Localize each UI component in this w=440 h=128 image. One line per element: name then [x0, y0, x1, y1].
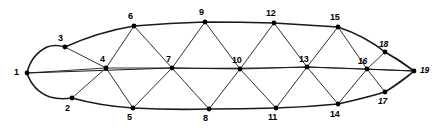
edge-2-4 [72, 68, 106, 98]
node-label-7: 7 [166, 55, 171, 64]
edge-10-12 [240, 23, 274, 69]
edge-13-15 [307, 27, 338, 67]
edge-16-17 [367, 69, 385, 92]
node-label-13: 13 [299, 55, 309, 64]
node-dot-6[interactable] [132, 24, 137, 29]
node-label-17: 17 [378, 97, 387, 106]
node-label-19: 19 [420, 66, 429, 75]
edge-17-19 [385, 71, 414, 92]
outline-layer [27, 22, 414, 109]
node-label-3: 3 [58, 34, 63, 43]
node-dot-18[interactable] [383, 50, 388, 55]
node-label-1: 1 [14, 68, 19, 77]
node-dot-11[interactable] [274, 106, 279, 111]
node-dot-3[interactable] [63, 45, 68, 50]
outline-path-lower-hull [27, 71, 414, 109]
node-dot-5[interactable] [131, 106, 136, 111]
edge-8-10 [209, 69, 240, 109]
edge-4-5 [106, 68, 133, 108]
edge-16-18 [367, 52, 385, 69]
node-label-10: 10 [232, 56, 242, 65]
node-label-14: 14 [330, 110, 340, 119]
node-label-6: 6 [128, 12, 133, 21]
node-label-12: 12 [266, 9, 276, 18]
node-dot-10[interactable] [238, 67, 243, 72]
node-label-5: 5 [127, 113, 132, 122]
edge-7-8 [172, 68, 209, 109]
node-dot-17[interactable] [383, 90, 388, 95]
edge-7-9 [172, 22, 205, 68]
node-label-8: 8 [203, 114, 208, 123]
node-dot-13[interactable] [305, 65, 310, 70]
node-dot-15[interactable] [336, 25, 341, 30]
edge-13-14 [307, 67, 338, 104]
node-label-11: 11 [268, 113, 277, 122]
edge-4-6 [106, 26, 134, 68]
node-label-4: 4 [100, 55, 105, 64]
outline-path-upper-hull [27, 22, 414, 73]
node-label-2: 2 [65, 104, 70, 113]
node-dot-16[interactable] [365, 67, 370, 72]
node-label-9: 9 [199, 8, 204, 17]
node-dot-14[interactable] [336, 102, 341, 107]
node-dot-9[interactable] [203, 20, 208, 25]
node-dot-2[interactable] [70, 96, 75, 101]
mesh-graph-figure: 12345678910111213141516171819 [0, 0, 440, 128]
node-dot-1[interactable] [25, 71, 30, 76]
edge-5-7 [133, 68, 172, 108]
node-label-18: 18 [379, 40, 388, 49]
node-dot-7[interactable] [170, 66, 175, 71]
node-label-16: 16 [358, 57, 367, 66]
outline-path-median-chord [27, 67, 414, 73]
node-dot-4[interactable] [104, 66, 109, 71]
node-dot-19[interactable] [412, 69, 417, 74]
edge-11-13 [276, 67, 307, 108]
edge-10-11 [240, 69, 276, 108]
node-dot-12[interactable] [272, 21, 277, 26]
node-dot-8[interactable] [207, 107, 212, 112]
edge-18-19 [385, 52, 414, 71]
node-label-15: 15 [330, 13, 340, 22]
inner-edge-layer [27, 22, 414, 109]
